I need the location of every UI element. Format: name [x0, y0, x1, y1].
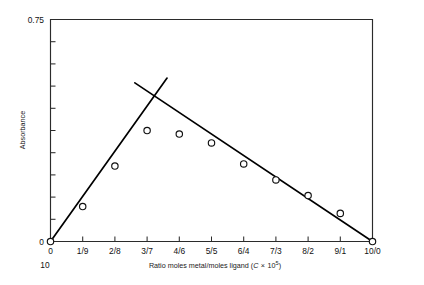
data-point-7-3 [273, 177, 279, 183]
data-point-4-6 [176, 131, 182, 137]
data-point-10-0 [369, 238, 375, 244]
data-point-5-5 [208, 140, 214, 146]
x-title-times: × [261, 261, 265, 270]
data-point-6-4 [241, 161, 247, 167]
x-tick-label-8: 8/2 [302, 246, 314, 256]
y-tick-label-min: 0 [39, 237, 44, 247]
x-tick-label-9: 9/1 [334, 246, 346, 256]
y-tick-label-max: 0.75 [28, 15, 45, 25]
x-axis-secondary-origin-label: 10 [40, 260, 50, 270]
x-title-close: ) [279, 261, 281, 270]
data-point-9-1 [337, 210, 343, 216]
x-title-base: 10 [268, 261, 276, 270]
y-axis-title-text: Absorbance [18, 111, 27, 149]
x-tick-label-4: 4/6 [173, 246, 185, 256]
x-tick-label-1: 1/9 [77, 246, 89, 256]
x-tick-label-6: 6/4 [238, 246, 250, 256]
data-point-3-7 [144, 127, 150, 133]
x-tick-label-5: 5/5 [206, 246, 218, 256]
x-axis-title: Ratio moles metal/moles ligand (C×105) [149, 260, 281, 270]
x-tick-label-10: 10/0 [364, 246, 381, 256]
x-tick-label-0: 0 [48, 246, 53, 256]
data-point-1-9 [80, 203, 86, 209]
x-title-variable: C [253, 261, 259, 270]
data-point-8-2 [305, 192, 311, 198]
x-tick-label-3: 3/7 [141, 246, 153, 256]
x-tick-label-7: 7/3 [270, 246, 282, 256]
x-axis-title-text: Ratio moles metal/moles ligand (C×105) [149, 260, 281, 270]
data-point-2-8 [112, 163, 118, 169]
absorbance-mole-ratio-chart: 0.75 0 01/92/83/74/65/56/47/38/29/110/0 … [0, 0, 424, 285]
x-tick-label-2: 2/8 [109, 246, 121, 256]
x-title-lead: Ratio moles metal/moles ligand ( [149, 261, 254, 270]
y-axis-title: Absorbance [18, 111, 27, 149]
data-point-0 [47, 238, 53, 244]
